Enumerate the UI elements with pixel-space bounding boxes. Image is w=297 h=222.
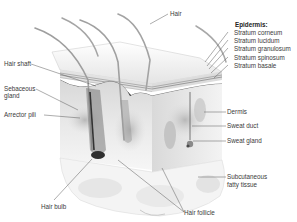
label-stratum-corneum: Stratum corneum	[234, 29, 282, 36]
label-subcutaneous-line1: Subcutaneous	[227, 173, 267, 180]
label-arrector-pili: Arrector pili	[4, 111, 36, 118]
label-hair: Hair	[170, 10, 182, 17]
label-epidermis-heading: Epidermis:	[235, 21, 268, 28]
label-dermis: Dermis	[227, 108, 247, 115]
label-sebaceous-gland-line2: gland	[4, 92, 19, 99]
label-hair-bulb: Hair bulb	[41, 203, 66, 210]
label-hair-shaft: Hair shaft	[4, 60, 31, 67]
label-sweat-gland: Sweat gland	[227, 137, 262, 144]
label-stratum-granulosum: Stratum granulosum	[234, 45, 291, 52]
label-stratum-lucidum: Stratum lucidum	[234, 37, 280, 44]
label-stratum-basale: Stratum basale	[234, 62, 276, 69]
label-sweat-duct: Sweat duct	[227, 122, 258, 129]
label-stratum-spinosum: Stratum spinosum	[234, 54, 285, 61]
label-subcutaneous-line2: fatty tissue	[227, 181, 257, 188]
label-hair-follicle: Hair follicle	[184, 209, 215, 216]
